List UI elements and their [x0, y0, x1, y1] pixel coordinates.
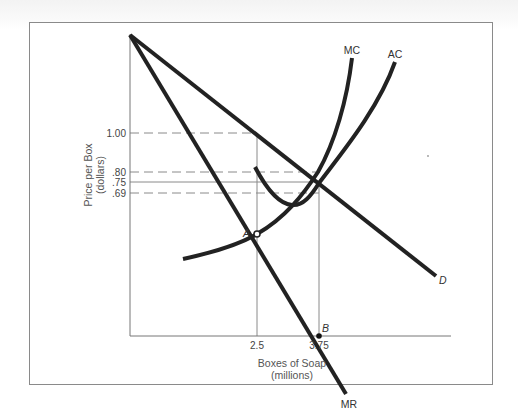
- axes: [130, 34, 451, 336]
- mc-label: MC: [344, 44, 361, 56]
- x-tick-2-5: 2.5: [250, 340, 264, 351]
- point-a-label: A: [242, 227, 250, 239]
- y-axis-subtitle: (dollars): [94, 156, 106, 194]
- marginal-cost-curve: [183, 58, 352, 259]
- y-tick-0-69: .69: [112, 188, 126, 199]
- x-axis-title: Boxes of Soap: [258, 357, 326, 369]
- point-b-marker: [316, 333, 322, 339]
- economics-chart: 1.00 .80 .75 .69 2.5 3.75 Boxes of Soap …: [0, 0, 518, 412]
- point-a-marker: [254, 231, 260, 237]
- x-axis-subtitle: (millions): [271, 369, 313, 381]
- average-cost-curve: [255, 62, 395, 205]
- mr-label: MR: [341, 398, 358, 410]
- point-b-label: B: [322, 322, 329, 334]
- ac-label: AC: [388, 48, 403, 60]
- x-tick-3-75: 3.75: [309, 340, 329, 351]
- curves: [130, 35, 436, 394]
- points: [254, 231, 322, 339]
- y-axis-title: Price per Box: [82, 143, 94, 207]
- y-tick-0-75: .75: [112, 177, 126, 188]
- y-tick-1-00: 1.00: [107, 128, 127, 139]
- demand-label: D: [439, 274, 447, 286]
- print-speck: [427, 155, 429, 157]
